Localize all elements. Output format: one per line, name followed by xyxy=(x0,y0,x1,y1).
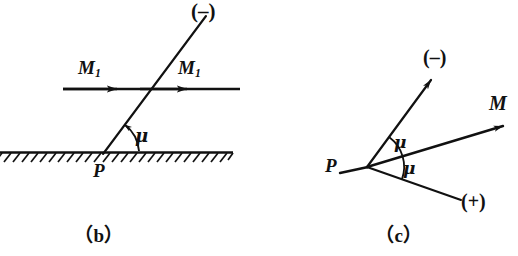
figure-drawing xyxy=(0,0,518,256)
moment-right-subscript: 1 xyxy=(195,67,201,80)
vertex-label-c: P xyxy=(325,156,337,175)
panel-c-drawing xyxy=(340,80,503,200)
angle-label-lower-c: μ xyxy=(403,160,415,177)
negative-ray-b xyxy=(103,16,206,154)
figure-container: (–) M1 M1 μ P （b） (–) M (+) μ μ P （c） xyxy=(0,0,518,256)
resultant-label-c: M xyxy=(489,93,507,113)
moment-left-subscript: 1 xyxy=(95,67,101,80)
moment-right-symbol: M xyxy=(178,57,195,78)
angle-label-upper-c: μ xyxy=(394,134,406,151)
negative-ray-c xyxy=(367,80,431,167)
moment-right-label-b: M1 xyxy=(178,58,201,79)
moment-left-label-b: M1 xyxy=(78,58,101,79)
vertex-tail-c xyxy=(340,167,368,173)
positive-label-c: (+) xyxy=(461,191,486,211)
panel-b-drawing xyxy=(0,16,240,162)
moment-left-symbol: M xyxy=(78,57,95,78)
caption-b: （b） xyxy=(74,226,124,245)
angle-label-b: μ xyxy=(135,127,148,145)
negative-label-c: (–) xyxy=(423,47,446,67)
resultant-ray-c xyxy=(367,126,503,167)
ground-hatching xyxy=(0,153,233,163)
vertex-label-b: P xyxy=(93,161,105,180)
negative-label-b: (–) xyxy=(191,1,216,22)
caption-c: （c） xyxy=(375,226,423,245)
